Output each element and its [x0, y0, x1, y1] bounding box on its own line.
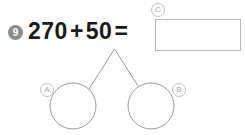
branch-line-left [89, 49, 115, 89]
label-badge-a: A [40, 83, 54, 97]
bond-circle-a[interactable] [50, 83, 96, 129]
bond-circle-b[interactable] [128, 83, 174, 129]
label-badge-b: B [172, 83, 186, 97]
worksheet-problem-canvas: 9 270+50= C A B [0, 0, 245, 135]
branch-line-right [115, 49, 141, 89]
number-bond-diagram [0, 0, 245, 135]
